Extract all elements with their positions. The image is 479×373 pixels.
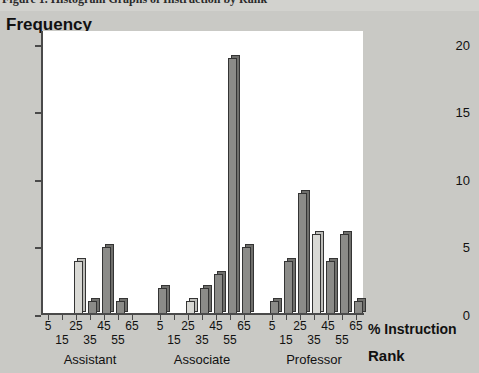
x-axis-tick-label: 45 bbox=[209, 319, 222, 333]
bar-face bbox=[228, 58, 237, 315]
figure-caption: Figure 1. Histogram Graphs of Instructio… bbox=[2, 0, 267, 7]
bar-side-face bbox=[293, 258, 296, 312]
histogram-chart: Frequency % Instruction Rank 05101520515… bbox=[0, 11, 479, 373]
x-axis-tick-label: 35 bbox=[195, 333, 208, 347]
bar bbox=[340, 234, 349, 315]
x-axis-tick-label: 15 bbox=[55, 333, 68, 347]
group-label: Assistant bbox=[64, 352, 117, 367]
bar-side-face bbox=[223, 271, 226, 312]
bar-side-face bbox=[307, 190, 310, 312]
x-axis-tick-label: 65 bbox=[237, 319, 250, 333]
group-label: Associate bbox=[174, 352, 230, 367]
bar bbox=[298, 193, 307, 315]
bar-face bbox=[200, 288, 209, 315]
bar bbox=[284, 261, 293, 315]
bar bbox=[312, 234, 321, 315]
bar-face bbox=[298, 193, 307, 315]
x-axis-tick-label: 5 bbox=[157, 319, 164, 333]
x-axis-tick bbox=[230, 315, 231, 320]
x-axis-tick-label: 5 bbox=[45, 319, 52, 333]
bar-face bbox=[284, 261, 293, 315]
x-axis-tick-label: 45 bbox=[97, 319, 110, 333]
x-axis-tick-label: 25 bbox=[293, 319, 306, 333]
bar-face bbox=[340, 234, 349, 315]
x-axis-tick-label: 15 bbox=[167, 333, 180, 347]
bar bbox=[214, 274, 223, 315]
y-axis-tick-label: 10 bbox=[456, 172, 470, 187]
bar-face bbox=[242, 247, 251, 315]
y-axis-tick-label: 15 bbox=[456, 105, 470, 120]
bar-side-face bbox=[111, 244, 114, 312]
x-axis-tick-label: 45 bbox=[321, 319, 334, 333]
x-axis-tick-label: 55 bbox=[335, 333, 348, 347]
bar bbox=[326, 261, 335, 315]
x-axis-tick-label: 25 bbox=[69, 319, 82, 333]
bar-side-face bbox=[83, 258, 86, 312]
bar-face bbox=[158, 288, 167, 315]
bar-side-face bbox=[321, 231, 324, 312]
x-axis-tick-label: 15 bbox=[279, 333, 292, 347]
x-axis-tick bbox=[118, 315, 119, 320]
x-axis-tick-label: 5 bbox=[269, 319, 276, 333]
x-axis-tick bbox=[314, 315, 315, 320]
x-axis-tick-label: 35 bbox=[83, 333, 96, 347]
group-label: Professor bbox=[286, 352, 342, 367]
bar bbox=[74, 261, 83, 315]
bar bbox=[102, 247, 111, 315]
x-axis-tick-label: 55 bbox=[223, 333, 236, 347]
x-axis-tick-label: 25 bbox=[181, 319, 194, 333]
x-axis-tick bbox=[90, 315, 91, 320]
group-axis-title: Rank bbox=[368, 347, 405, 364]
bar-side-face bbox=[209, 285, 212, 312]
y-axis-tick-label: 20 bbox=[456, 37, 470, 52]
bar bbox=[158, 288, 167, 315]
x-axis-tick-label: 65 bbox=[349, 319, 362, 333]
figure-caption-strip: Figure 1. Histogram Graphs of Instructio… bbox=[0, 0, 479, 11]
x-axis-tick bbox=[342, 315, 343, 320]
y-axis bbox=[0, 31, 41, 315]
bar bbox=[228, 58, 237, 315]
bar-face bbox=[102, 247, 111, 315]
bar-face bbox=[326, 261, 335, 315]
bar-side-face bbox=[237, 55, 240, 312]
x-axis-tick-label: 35 bbox=[307, 333, 320, 347]
plot-area bbox=[41, 31, 363, 315]
bar-side-face bbox=[251, 244, 254, 312]
bar bbox=[200, 288, 209, 315]
y-axis-tick-label: 0 bbox=[463, 308, 470, 323]
x-axis-tick bbox=[286, 315, 287, 320]
x-axis-tick-label: 55 bbox=[111, 333, 124, 347]
bars-container bbox=[43, 31, 363, 315]
x-axis-tick-label: 65 bbox=[125, 319, 138, 333]
bar-side-face bbox=[335, 258, 338, 312]
bar-side-face bbox=[349, 231, 352, 312]
bar-face bbox=[74, 261, 83, 315]
x-axis-tick bbox=[62, 315, 63, 320]
bar bbox=[242, 247, 251, 315]
bar-face bbox=[312, 234, 321, 315]
x-axis-title: % Instruction bbox=[368, 321, 457, 337]
x-axis-tick bbox=[174, 315, 175, 320]
y-axis-tick-label: 5 bbox=[463, 240, 470, 255]
y-axis-tick bbox=[35, 315, 41, 317]
bar-face bbox=[214, 274, 223, 315]
bar-side-face bbox=[167, 285, 170, 312]
x-axis-tick bbox=[202, 315, 203, 320]
